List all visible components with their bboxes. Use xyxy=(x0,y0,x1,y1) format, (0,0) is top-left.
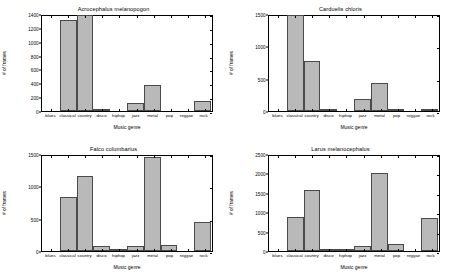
x-tick-label: rock xyxy=(422,253,439,258)
x-tick-label: jazz xyxy=(127,113,144,118)
bar-cell xyxy=(354,156,371,251)
x-tick-label: hiphop xyxy=(337,253,354,258)
x-tick-mark xyxy=(415,156,416,158)
x-tick-mark xyxy=(171,156,172,158)
chart-panel-1: Carduelis chloris # of frames 0500100015… xyxy=(227,0,454,140)
x-tick-label: country xyxy=(303,113,320,118)
bar-cell xyxy=(60,156,77,251)
x-tick-mark xyxy=(381,16,382,18)
bar xyxy=(388,244,405,251)
x-axis-label: Music genre xyxy=(268,124,440,130)
x-tick-mark xyxy=(119,156,120,158)
bar-cell xyxy=(127,156,144,251)
y-tick-mark-right xyxy=(437,81,439,82)
bar xyxy=(388,109,405,111)
x-tick-mark xyxy=(398,249,399,251)
y-tick-mark-right xyxy=(437,156,439,157)
x-tick-mark xyxy=(102,109,103,111)
plot-area xyxy=(268,155,440,252)
x-tick-mark xyxy=(381,156,382,158)
bar-cell xyxy=(161,156,178,251)
bar-cell xyxy=(304,156,321,251)
x-axis-ticks: bluesclassicalcountrydiscohiphopjazzmeta… xyxy=(268,253,440,258)
x-tick-mark xyxy=(364,156,365,158)
x-tick-label: country xyxy=(76,113,93,118)
x-tick-label: jazz xyxy=(354,253,371,258)
x-tick-label: classical xyxy=(59,253,76,258)
y-tick-label: 2000 xyxy=(255,172,265,177)
x-tick-label: reggae xyxy=(178,113,195,118)
bar xyxy=(144,157,161,251)
bar-series xyxy=(42,156,212,251)
bar xyxy=(304,190,321,251)
plot-area xyxy=(268,15,440,112)
x-tick-mark xyxy=(171,109,172,111)
x-tick-mark xyxy=(137,156,138,158)
x-tick-label: pop xyxy=(388,253,405,258)
y-tick-mark-right xyxy=(437,234,439,235)
x-tick-mark xyxy=(137,109,138,111)
bar xyxy=(127,246,144,252)
bar-cell xyxy=(320,16,337,111)
x-tick-label: rock xyxy=(195,113,212,118)
y-tick-mark-right xyxy=(437,214,439,215)
x-tick-label: metal xyxy=(144,253,161,258)
x-tick-mark xyxy=(278,156,279,158)
bar-cell xyxy=(77,16,94,111)
x-tick-mark xyxy=(415,16,416,18)
x-tick-label: metal xyxy=(144,113,161,118)
x-tick-label: pop xyxy=(161,113,178,118)
bar xyxy=(371,173,388,251)
bar-cell xyxy=(371,156,388,251)
x-tick-label: rock xyxy=(195,253,212,258)
x-tick-label: reggae xyxy=(405,253,422,258)
bar xyxy=(371,83,388,111)
x-tick-mark xyxy=(381,249,382,251)
y-tick-mark-right xyxy=(210,156,212,157)
bar-cell xyxy=(320,156,337,251)
y-tick-label: 600 xyxy=(31,68,39,73)
x-tick-label: disco xyxy=(320,113,337,118)
x-tick-label: disco xyxy=(320,253,337,258)
x-axis-ticks: bluesclassicalcountrydiscohiphopjazzmeta… xyxy=(268,113,440,118)
bar-cell xyxy=(144,16,161,111)
y-tick-mark-right xyxy=(210,85,212,86)
x-tick-label: jazz xyxy=(127,253,144,258)
x-tick-mark xyxy=(188,156,189,158)
bar-cell xyxy=(404,16,421,111)
x-tick-mark xyxy=(278,109,279,111)
x-tick-mark xyxy=(51,156,52,158)
y-tick-label: 500 xyxy=(31,217,39,222)
x-tick-mark xyxy=(364,16,365,18)
x-axis-label: Music genre xyxy=(41,124,213,130)
bar xyxy=(354,246,371,251)
x-tick-mark xyxy=(154,16,155,18)
bar xyxy=(127,103,144,111)
x-tick-mark xyxy=(346,249,347,251)
x-tick-mark xyxy=(51,109,52,111)
x-tick-label: classical xyxy=(59,113,76,118)
bar-cell xyxy=(304,16,321,111)
x-tick-mark xyxy=(329,249,330,251)
y-tick-label: 1500 xyxy=(255,13,265,18)
x-tick-mark xyxy=(68,156,69,158)
x-tick-mark xyxy=(154,109,155,111)
bar-cell xyxy=(77,156,94,251)
x-tick-mark xyxy=(102,16,103,18)
x-axis-label: Music genre xyxy=(268,264,440,270)
bar-cell xyxy=(388,16,405,111)
x-tick-mark xyxy=(346,16,347,18)
bar xyxy=(161,245,178,251)
x-tick-mark xyxy=(432,156,433,158)
x-tick-label: country xyxy=(303,253,320,258)
bar-cell xyxy=(177,16,194,111)
x-tick-label: classical xyxy=(286,253,303,258)
x-tick-mark xyxy=(381,109,382,111)
x-tick-mark xyxy=(295,249,296,251)
x-tick-mark xyxy=(364,249,365,251)
chart-panel-2: Falco columbarius # of frames 0500100015… xyxy=(0,140,227,280)
bar-cell xyxy=(60,16,77,111)
y-tick-label: 500 xyxy=(258,77,266,82)
x-tick-label: hiphop xyxy=(110,113,127,118)
bar-cell xyxy=(404,156,421,251)
